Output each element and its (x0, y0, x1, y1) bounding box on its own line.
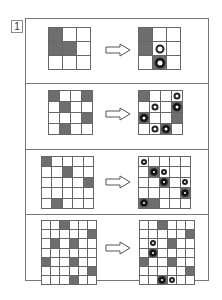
grid-cell (63, 178, 73, 188)
grid-cell (71, 102, 82, 113)
grid-cell (149, 221, 158, 230)
grid-cell (70, 267, 79, 276)
grid-cell (49, 113, 60, 124)
grid-cell (73, 157, 83, 167)
grid-cell (82, 113, 93, 124)
grid-cell (172, 113, 183, 124)
grid-cell (149, 249, 158, 258)
grid-cell (167, 56, 181, 70)
after-grid (138, 27, 181, 70)
white-circle-icon (141, 159, 147, 165)
white-circle-icon (161, 169, 167, 175)
grid-cell (77, 42, 91, 56)
grid-cell (49, 124, 60, 135)
panel-1 (26, 19, 208, 83)
grid-cell (49, 56, 63, 70)
grid-cell (186, 249, 195, 258)
grid-cell (139, 157, 149, 167)
grid-cell (42, 230, 51, 239)
grid-cell (139, 199, 149, 209)
grid-cell (181, 199, 191, 209)
dark-circle-icon (141, 115, 148, 122)
right-arrow-icon (105, 241, 131, 255)
grid-cell (172, 91, 183, 102)
grid-cell (73, 199, 83, 209)
grid-cell (139, 42, 153, 56)
grid-cell (140, 258, 149, 267)
grid-cell (161, 91, 172, 102)
grid-cell (161, 113, 172, 124)
grid-cell (60, 267, 69, 276)
grid-cell (88, 267, 97, 276)
right-arrow-icon (105, 107, 131, 121)
grid-cell (82, 91, 93, 102)
grid-cell (79, 267, 88, 276)
grid-cell (177, 221, 186, 230)
grid-cell (88, 276, 97, 285)
grid-cell (60, 102, 71, 113)
grid-cell (167, 28, 181, 42)
grid-cell (149, 267, 158, 276)
grid-cell (168, 249, 177, 258)
grid-cell (186, 267, 195, 276)
grid-cell (51, 276, 60, 285)
grid-cell (60, 249, 69, 258)
grid-cell (60, 276, 69, 285)
dark-circle-icon (141, 200, 147, 206)
grid-cell (149, 230, 158, 239)
grid-cell (52, 188, 62, 198)
grid-cell (84, 199, 94, 209)
grid-cell (51, 267, 60, 276)
grid-cell (160, 188, 170, 198)
grid-cell (63, 167, 73, 177)
grid-cell (77, 56, 91, 70)
grid-cell (139, 56, 153, 70)
panel-4 (26, 214, 208, 281)
grid-cell (71, 91, 82, 102)
grid-cell (140, 276, 149, 285)
grid-cell (79, 276, 88, 285)
grid-cell (140, 230, 149, 239)
before-grid (48, 27, 91, 70)
grid-cell (160, 157, 170, 167)
grid-cell (140, 221, 149, 230)
grid-cell (172, 102, 183, 113)
grid-cell (42, 239, 51, 248)
grid-cell (84, 188, 94, 198)
grid-cell (153, 42, 167, 56)
grid-cell (70, 230, 79, 239)
grid-cell (168, 239, 177, 248)
grid-cell (168, 221, 177, 230)
grid-cell (186, 221, 195, 230)
grid-cell (161, 124, 172, 135)
grid-cell (63, 199, 73, 209)
grid-cell (71, 113, 82, 124)
grid-cell (140, 239, 149, 248)
grid-cell (139, 178, 149, 188)
grid-cell (140, 249, 149, 258)
grid-cell (186, 239, 195, 248)
grid-cell (49, 102, 60, 113)
grid-cell (88, 258, 97, 267)
grid-cell (88, 230, 97, 239)
grid-cell (172, 124, 183, 135)
grid-cell (84, 167, 94, 177)
panel-2 (26, 83, 208, 149)
grid-cell (42, 199, 52, 209)
white-circle-icon (152, 126, 159, 133)
grid-cell (181, 167, 191, 177)
grid-cell (149, 239, 158, 248)
white-circle-icon (152, 104, 159, 111)
grid-cell (70, 276, 79, 285)
grid-cell (149, 199, 159, 209)
white-circle-icon (150, 240, 156, 246)
grid-cell (71, 124, 82, 135)
grid-cell (52, 199, 62, 209)
grid-cell (170, 188, 180, 198)
grid-cell (170, 178, 180, 188)
grid-cell (149, 157, 159, 167)
grid-cell (84, 178, 94, 188)
grid-cell (60, 124, 71, 135)
grid-cell (60, 91, 71, 102)
panel-3 (26, 149, 208, 214)
